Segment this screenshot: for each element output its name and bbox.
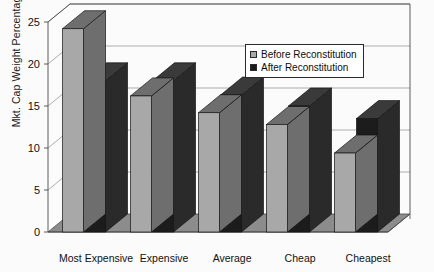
x-axis-tick-label: Cheap bbox=[285, 252, 316, 264]
x-axis-tick-label: Expensive bbox=[140, 252, 188, 264]
legend-label: Before Reconstitution bbox=[261, 48, 357, 61]
legend-swatch-icon bbox=[250, 51, 257, 58]
legend-label: After Reconstitution bbox=[261, 61, 348, 74]
x-axis-tick-label: Cheapest bbox=[346, 252, 391, 264]
legend-swatch-icon bbox=[250, 64, 257, 71]
bar-chart: Mkt. Cap Weight Percentage 0510152025 Mo… bbox=[0, 0, 434, 272]
x-axis-tick-label: Average bbox=[213, 252, 252, 264]
chart-legend: Before ReconstitutionAfter Reconstitutio… bbox=[245, 44, 364, 78]
plot-area bbox=[0, 0, 434, 272]
x-axis-tick-label: Most Expensive bbox=[59, 252, 133, 264]
legend-entry: After Reconstitution bbox=[250, 61, 357, 74]
legend-entry: Before Reconstitution bbox=[250, 48, 357, 61]
